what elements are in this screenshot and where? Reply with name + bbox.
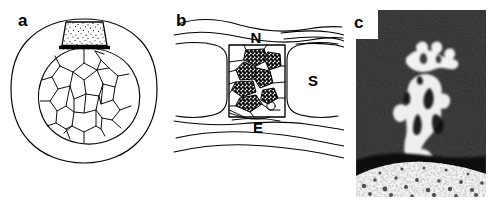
panel-c: c	[344, 0, 496, 204]
annotation-s-b: S	[308, 72, 318, 89]
panel-label-a: a	[18, 12, 27, 29]
cell-mosaic-a	[40, 49, 131, 143]
panel-a-drawing	[0, 0, 168, 204]
figure-container: a	[0, 0, 496, 204]
micrograph-photo	[356, 10, 486, 197]
panel-label-b: b	[176, 12, 186, 29]
annotation-e-b: E	[253, 119, 263, 136]
cell-left-b	[176, 43, 227, 118]
panel-label-c: c	[354, 14, 363, 31]
annotation-n-b: N	[251, 29, 262, 46]
panel-b-drawing: N S E	[168, 0, 344, 204]
panel-b: b	[168, 0, 344, 204]
panel-a: a	[0, 0, 168, 204]
